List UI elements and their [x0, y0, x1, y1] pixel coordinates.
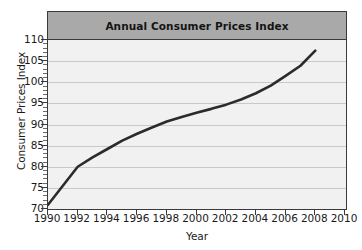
x-tick-mark	[166, 210, 167, 215]
plot-area: Annual Consumer Prices Index	[47, 11, 347, 210]
y-minor-tick-mark	[43, 174, 47, 175]
x-tick-mark	[285, 210, 286, 215]
y-minor-tick-mark	[43, 94, 47, 95]
y-tick-mark	[41, 60, 47, 61]
y-minor-tick-mark	[43, 128, 47, 129]
y-minor-tick-mark	[43, 111, 47, 112]
y-minor-tick-mark	[43, 132, 47, 133]
x-tick-mark	[344, 210, 345, 215]
y-minor-tick-mark	[43, 43, 47, 44]
y-minor-tick-mark	[43, 195, 47, 196]
y-minor-tick-mark	[43, 136, 47, 137]
x-tick-mark	[106, 210, 107, 215]
x-tick-mark	[225, 210, 226, 215]
y-minor-tick-mark	[43, 86, 47, 87]
y-minor-tick-mark	[43, 77, 47, 78]
x-axis-title: Year	[47, 230, 347, 242]
y-minor-tick-mark	[43, 98, 47, 99]
data-line	[48, 12, 347, 210]
y-minor-tick-mark	[43, 162, 47, 163]
y-minor-tick-mark	[43, 73, 47, 74]
x-tick-mark	[196, 210, 197, 215]
y-minor-tick-mark	[43, 69, 47, 70]
y-minor-tick-mark	[43, 183, 47, 184]
x-tick-mark	[314, 210, 315, 215]
y-tick-mark	[41, 124, 47, 125]
series-line	[48, 12, 346, 209]
chart-title-band: Annual Consumer Prices Index	[48, 12, 346, 40]
y-minor-tick-mark	[43, 48, 47, 49]
y-minor-tick-mark	[43, 140, 47, 141]
y-minor-tick-mark	[43, 153, 47, 154]
y-tick-mark	[41, 166, 47, 167]
x-tick-mark	[47, 210, 48, 215]
y-minor-tick-mark	[43, 204, 47, 205]
y-minor-tick-mark	[43, 178, 47, 179]
y-minor-tick-mark	[43, 90, 47, 91]
y-minor-tick-mark	[43, 52, 47, 53]
y-tick-mark	[41, 39, 47, 40]
x-tick-mark	[136, 210, 137, 215]
y-minor-tick-mark	[43, 56, 47, 57]
y-minor-tick-mark	[43, 115, 47, 116]
y-minor-tick-mark	[43, 149, 47, 150]
y-tick-mark	[41, 208, 47, 209]
x-tick-mark	[77, 210, 78, 215]
y-minor-tick-mark	[43, 191, 47, 192]
y-minor-tick-mark	[43, 64, 47, 65]
y-minor-tick-mark	[43, 157, 47, 158]
x-tick-mark	[255, 210, 256, 215]
chart-title: Annual Consumer Prices Index	[105, 20, 288, 32]
y-tick-mark	[41, 145, 47, 146]
gridline	[48, 209, 346, 210]
y-minor-tick-mark	[43, 119, 47, 120]
x-axis-tick-label: 2010	[324, 213, 362, 224]
y-minor-tick-mark	[43, 170, 47, 171]
y-tick-mark	[41, 102, 47, 103]
y-minor-tick-mark	[43, 200, 47, 201]
y-tick-mark	[41, 187, 47, 188]
y-minor-tick-mark	[43, 107, 47, 108]
y-tick-mark	[41, 81, 47, 82]
